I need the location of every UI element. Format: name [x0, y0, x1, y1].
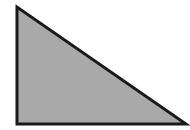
- diagram-canvas: [0, 0, 190, 130]
- right-triangle-shape: [17, 7, 186, 124]
- triangle-diagram: [0, 0, 190, 130]
